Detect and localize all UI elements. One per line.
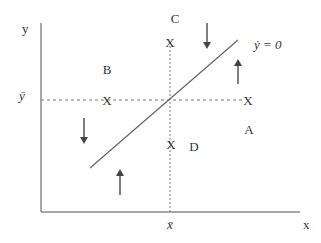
arrow-up-icon [234,59,242,84]
region-label-d: D [189,139,198,154]
arrow-down-icon [203,23,211,49]
arrow-up-icon [116,169,124,195]
phase-diagram: X X X X C B A D ẏ = 0 y ȳ x̄ x [0,0,321,243]
ydot-zero-line [90,40,238,168]
marker-right: X [243,93,253,108]
marker-left: X [102,93,112,108]
x-axis-label: x [303,217,310,232]
y-axis-label: y [22,21,29,36]
region-label-a: A [244,122,254,137]
y-bar-label: ȳ [17,88,25,103]
region-label-c: C [171,11,180,26]
marker-bottom: X [166,137,176,152]
marker-top: X [165,35,175,50]
region-label-b: B [103,62,112,77]
arrow-down-icon [80,118,88,144]
x-bar-label: x̄ [166,217,173,232]
curve-label: ẏ = 0 [252,37,282,52]
